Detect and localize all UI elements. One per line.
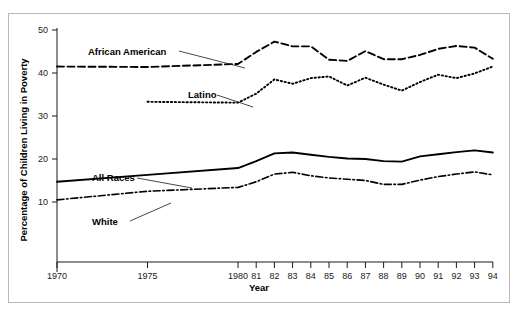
x-tick-label-1986: 86 <box>342 271 352 281</box>
x-tick-label-1987: 87 <box>360 271 370 281</box>
x-tick-label-1985: 85 <box>324 271 334 281</box>
x-tick-label-1982: 82 <box>269 271 279 281</box>
x-tick-label-1988: 88 <box>379 271 389 281</box>
poverty-line-chart: 50 40 30 20 10 1970197519808182838485868… <box>0 0 518 316</box>
series-label-all-races: All Races <box>92 172 135 183</box>
x-tick-label-1981: 81 <box>251 271 261 281</box>
leader-line-latino <box>217 95 253 107</box>
annotation-leaders <box>130 51 253 221</box>
y-tick-label-50: 50 <box>38 25 48 35</box>
series-label-white: White <box>92 216 118 227</box>
y-tick-label-10: 10 <box>38 197 48 207</box>
x-tick-marks <box>57 262 493 268</box>
chart-figure: 50 40 30 20 10 1970197519808182838485868… <box>0 0 518 316</box>
x-tick-label-1991: 91 <box>433 271 443 281</box>
y-tick-label-40: 40 <box>38 68 48 78</box>
x-tick-label-1992: 92 <box>451 271 461 281</box>
series-label-african-american: African American <box>88 46 167 57</box>
x-tick-label-1984: 84 <box>306 271 316 281</box>
x-tick-label-1989: 89 <box>397 271 407 281</box>
series-label-latino: Latino <box>188 89 217 100</box>
y-axis-title: Percentage of Children Living in Poverty <box>18 58 29 242</box>
series-annotations: African AmericanLatinoAll RacesWhite <box>88 46 217 227</box>
y-tick-label-20: 20 <box>38 154 48 164</box>
x-tick-label-1970: 1970 <box>47 271 67 281</box>
x-tick-labels: 1970197519808182838485868788899091929394 <box>47 271 498 281</box>
y-tick-label-30: 30 <box>38 111 48 121</box>
x-tick-label-1983: 83 <box>288 271 298 281</box>
x-tick-label-1980: 1980 <box>228 271 248 281</box>
y-tick-labels: 50 40 30 20 10 <box>38 25 48 207</box>
x-axis-title: Year <box>249 282 269 293</box>
x-tick-label-1990: 90 <box>415 271 425 281</box>
y-tick-marks <box>52 30 57 202</box>
x-tick-label-1975: 1975 <box>137 271 157 281</box>
leader-line-all-races <box>137 178 192 188</box>
x-tick-label-1994: 94 <box>488 271 498 281</box>
x-tick-label-1993: 93 <box>470 271 480 281</box>
leader-line-white <box>130 203 171 221</box>
